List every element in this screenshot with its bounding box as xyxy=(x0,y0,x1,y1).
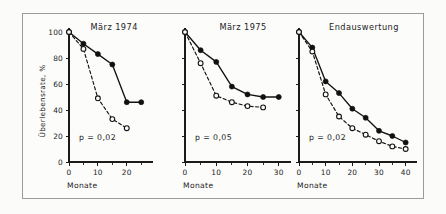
p-value-annotation-1: p = 0,02 xyxy=(79,133,116,142)
data-point-open-circle xyxy=(323,92,328,97)
x-tick-label: 0 xyxy=(183,168,188,177)
x-axis-label-3: Monate xyxy=(297,181,327,190)
data-point-open-circle xyxy=(214,93,219,98)
p-value-annotation-2: p = 0,05 xyxy=(195,133,232,142)
data-point-filled-circle xyxy=(198,48,203,53)
p-value-annotation-3: p = 0,02 xyxy=(309,133,346,142)
data-point-open-circle xyxy=(337,114,342,119)
data-point-filled-circle xyxy=(261,95,266,100)
chart-panel-1: 02040608010001020März 1974p = 0,02Monate xyxy=(48,22,153,190)
data-point-open-circle xyxy=(81,47,86,52)
series-line-open-circles xyxy=(299,32,406,149)
x-tick-label: 20 xyxy=(243,168,253,177)
data-point-open-circle xyxy=(124,126,129,131)
x-tick-label: 0 xyxy=(297,168,302,177)
data-point-filled-circle xyxy=(124,100,129,105)
data-point-filled-circle xyxy=(214,59,219,64)
data-point-filled-circle xyxy=(377,128,382,133)
data-point-filled-circle xyxy=(81,41,86,46)
data-point-open-circle xyxy=(183,30,188,35)
data-point-open-circle xyxy=(261,105,266,110)
data-point-open-circle xyxy=(229,100,234,105)
chart-panel-3: 010203040Endauswertungp = 0,02Monate xyxy=(296,22,418,190)
data-point-open-circle xyxy=(363,132,368,137)
y-tick-label: 80 xyxy=(53,54,63,63)
series-line-filled-circles xyxy=(69,32,141,102)
x-tick-label: 20 xyxy=(347,168,357,177)
series-line-open-circles xyxy=(185,32,263,107)
x-tick-label: 30 xyxy=(374,168,384,177)
x-tick-label: 0 xyxy=(67,168,72,177)
data-point-open-circle xyxy=(390,144,395,149)
x-tick-label: 10 xyxy=(321,168,331,177)
data-point-filled-circle xyxy=(245,92,250,97)
panel-title-3: Endauswertung xyxy=(329,22,399,32)
figure-frame: 02040608010001020März 1974p = 0,02Monate… xyxy=(22,13,424,199)
x-tick-label: 30 xyxy=(274,168,284,177)
data-point-filled-circle xyxy=(350,106,355,111)
data-point-open-circle xyxy=(297,30,302,35)
data-point-filled-circle xyxy=(229,84,234,89)
survival-curves-chart: 02040608010001020März 1974p = 0,02Monate… xyxy=(23,14,423,198)
data-point-open-circle xyxy=(377,139,382,144)
data-point-open-circle xyxy=(350,126,355,131)
y-axis-label: Überlebensrate, % xyxy=(38,64,47,137)
y-tick-label: 20 xyxy=(53,132,63,141)
data-point-open-circle xyxy=(403,147,408,152)
data-point-filled-circle xyxy=(95,52,100,57)
y-tick-label: 40 xyxy=(53,106,63,115)
data-point-open-circle xyxy=(310,49,315,54)
y-tick-label: 0 xyxy=(58,158,63,167)
x-tick-label: 40 xyxy=(401,168,411,177)
data-point-filled-circle xyxy=(323,79,328,84)
x-axis-label-2: Monate xyxy=(183,181,213,190)
data-point-filled-circle xyxy=(337,91,342,96)
y-tick-label: 100 xyxy=(48,28,63,37)
chart-panel-2: 0102030März 1975p = 0,05Monate xyxy=(182,22,292,190)
data-point-open-circle xyxy=(198,61,203,66)
data-point-filled-circle xyxy=(390,134,395,139)
data-point-filled-circle xyxy=(276,95,281,100)
data-point-filled-circle xyxy=(363,115,368,120)
x-tick-label: 10 xyxy=(211,168,221,177)
data-point-filled-circle xyxy=(403,140,408,145)
panel-title-2: März 1975 xyxy=(219,22,266,32)
x-tick-label: 10 xyxy=(93,168,103,177)
data-point-open-circle xyxy=(110,117,115,122)
data-point-open-circle xyxy=(245,104,250,109)
x-tick-label: 20 xyxy=(122,168,132,177)
x-axis-label-1: Monate xyxy=(67,181,97,190)
y-tick-label: 60 xyxy=(53,80,63,89)
figure-canvas: 02040608010001020März 1974p = 0,02Monate… xyxy=(0,0,446,214)
data-point-filled-circle xyxy=(110,62,115,67)
data-point-filled-circle xyxy=(139,100,144,105)
data-point-open-circle xyxy=(95,96,100,101)
panel-title-1: März 1974 xyxy=(91,22,138,32)
data-point-open-circle xyxy=(67,30,72,35)
